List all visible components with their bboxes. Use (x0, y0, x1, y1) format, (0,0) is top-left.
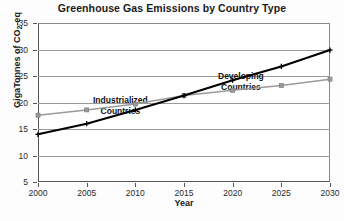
y-tick-label-25: 25 (19, 71, 28, 81)
data-point-marker (279, 64, 284, 69)
y-tick-mark-30 (33, 50, 37, 51)
data-point-marker (231, 88, 235, 92)
data-point-marker (279, 84, 283, 88)
y-tick-label-15: 15 (19, 124, 28, 134)
x-axis-title: Year (38, 198, 330, 208)
data-point-marker (328, 77, 332, 81)
x-tick-label-2005: 2005 (77, 188, 96, 198)
y-tick-mark-15 (33, 129, 37, 130)
x-tick-mark-2015 (184, 183, 185, 187)
chart-title: Greenhouse Gas Emissions by Country Type (0, 2, 344, 14)
data-point-marker (84, 121, 89, 126)
data-point-marker (133, 102, 137, 106)
x-tick-label-2020: 2020 (223, 188, 242, 198)
x-tick-mark-2005 (87, 183, 88, 187)
x-tick-label-2000: 2000 (29, 188, 48, 198)
x-tick-label-2010: 2010 (126, 188, 145, 198)
x-tick-mark-2010 (135, 183, 136, 187)
y-tick-label-20: 20 (19, 98, 28, 108)
data-point-marker (36, 113, 40, 117)
y-tick-mark-20 (33, 103, 37, 104)
data-point-marker (230, 78, 235, 83)
x-tick-mark-2030 (330, 183, 331, 187)
y-tick-label-30: 30 (19, 45, 28, 55)
data-point-marker (133, 107, 138, 112)
y-tick-mark-35 (33, 23, 37, 24)
x-tick-mark-2020 (233, 183, 234, 187)
x-tick-label-2015: 2015 (175, 188, 194, 198)
y-tick-label-35: 35 (19, 18, 28, 28)
x-tick-label-2030: 2030 (321, 188, 340, 198)
y-tick-label-10: 10 (19, 151, 28, 161)
y-tick-label-5: 5 (23, 177, 28, 187)
series-lines (38, 23, 330, 182)
chart-container: Greenhouse Gas Emissions by Country Type… (0, 0, 344, 221)
y-tick-mark-25 (33, 76, 37, 77)
x-tick-mark-2000 (38, 183, 39, 187)
plot-area: Industrialized Countries Developing Coun… (38, 23, 330, 182)
data-point-marker (35, 132, 40, 137)
y-tick-mark-10 (33, 156, 37, 157)
data-point-marker (85, 108, 89, 112)
y-tick-mark-5 (33, 182, 37, 183)
data-point-marker (327, 47, 332, 52)
series-line-developing-countries (38, 50, 330, 134)
y-axis-ticks: 5101520253035 (0, 23, 33, 182)
x-tick-mark-2025 (281, 183, 282, 187)
x-tick-label-2025: 2025 (272, 188, 291, 198)
